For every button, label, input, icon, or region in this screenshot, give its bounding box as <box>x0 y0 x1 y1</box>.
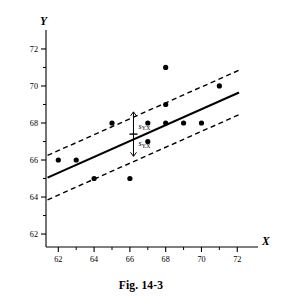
standard-error-bar <box>129 112 137 156</box>
y-axis-title: Y <box>40 15 48 27</box>
y-tick-label: 68 <box>30 119 38 128</box>
data-point <box>181 120 186 125</box>
data-point <box>163 120 168 125</box>
y-tick-label: 62 <box>30 230 38 239</box>
scatter-plot: 626466687072 626466687072 sY.XsY.X X Y <box>0 0 282 307</box>
x-tick-label: 64 <box>90 255 98 264</box>
data-point <box>92 176 97 181</box>
x-tick-label: 72 <box>233 255 241 264</box>
data-point <box>217 83 222 88</box>
data-point <box>199 120 204 125</box>
data-point <box>109 120 114 125</box>
y-tick-label: 66 <box>30 156 38 165</box>
y-tick-label: 64 <box>30 193 38 202</box>
x-tick-label: 66 <box>126 255 134 264</box>
axes <box>46 30 258 247</box>
data-point <box>163 102 168 107</box>
data-point <box>56 157 61 162</box>
regression-line <box>48 92 239 177</box>
data-point <box>74 157 79 162</box>
data-point <box>163 65 168 70</box>
figure-14-3: 626466687072 626466687072 sY.XsY.X X Y F… <box>0 0 282 307</box>
x-axis-tick-labels: 626466687072 <box>54 255 241 264</box>
data-point <box>127 176 132 181</box>
x-tick-label: 68 <box>162 255 170 264</box>
figure-caption: Fig. 14-3 <box>0 279 282 291</box>
y-axis-ticks <box>41 49 46 234</box>
x-tick-label: 62 <box>54 255 62 264</box>
x-axis-title: X <box>261 235 270 247</box>
y-tick-label: 72 <box>30 45 38 54</box>
y-axis-tick-labels: 626466687072 <box>30 45 38 239</box>
x-tick-label: 70 <box>197 255 205 264</box>
y-tick-label: 70 <box>30 82 38 91</box>
x-axis-ticks <box>58 247 237 252</box>
